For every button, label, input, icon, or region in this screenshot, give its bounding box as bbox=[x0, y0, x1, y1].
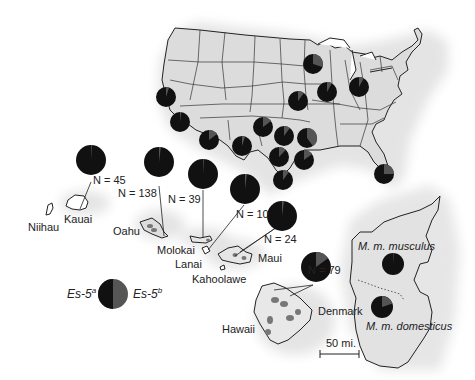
label-kauai: Kauai bbox=[64, 214, 92, 225]
pie-arkansas bbox=[297, 128, 317, 148]
pie-california-n bbox=[156, 87, 176, 107]
pie-oahu bbox=[144, 147, 174, 177]
label-n-lanai: N = 10 bbox=[236, 209, 269, 220]
legend-es5a: Es-5a bbox=[67, 287, 96, 300]
label-molokai: Molokai bbox=[157, 245, 195, 256]
pie-oklahoma bbox=[253, 117, 273, 137]
legend-es5b: Es-5b bbox=[133, 287, 162, 300]
pie-louisiana bbox=[294, 150, 314, 170]
pie-missouri bbox=[288, 91, 308, 111]
pie-new-mexico bbox=[232, 136, 252, 156]
label-n-hawaii: N = 79 bbox=[308, 265, 341, 276]
label-denmark: Denmark bbox=[318, 306, 363, 317]
pie-musculus bbox=[382, 253, 404, 275]
label-lanai: Lanai bbox=[175, 259, 202, 270]
pie-california-s bbox=[170, 112, 190, 132]
pie-ohio bbox=[349, 77, 369, 97]
pie-texas-c bbox=[269, 147, 289, 167]
island-niihau bbox=[46, 203, 53, 215]
label-n-molokai: N = 39 bbox=[168, 194, 201, 205]
pie-texas-n bbox=[274, 126, 294, 146]
scale-bar bbox=[320, 350, 359, 358]
pie-illinois bbox=[317, 82, 337, 102]
pie-domesticus bbox=[371, 296, 393, 318]
label-domesticus: M. m. domesticus bbox=[366, 321, 452, 332]
label-n-oahu: N = 138 bbox=[118, 188, 157, 199]
label-scale: 50 mi. bbox=[326, 338, 356, 349]
label-niihau: Niihau bbox=[28, 222, 59, 233]
pie-wisconsin bbox=[303, 54, 323, 74]
label-hawaii: Hawaii bbox=[222, 324, 255, 335]
label-n-kauai: N = 45 bbox=[93, 175, 126, 186]
label-musculus: M. m. musculus bbox=[358, 241, 435, 252]
label-kahoolawe: Kahoolawe bbox=[192, 274, 246, 285]
pie-maui bbox=[267, 201, 297, 231]
label-oahu: Oahu bbox=[113, 226, 140, 237]
pie-kauai bbox=[76, 145, 106, 175]
legend-pie bbox=[98, 279, 128, 309]
pie-molokai bbox=[188, 159, 218, 189]
pie-florida bbox=[374, 164, 394, 184]
pie-arizona bbox=[199, 130, 219, 150]
label-n-maui: N = 24 bbox=[264, 234, 297, 245]
pie-lanai bbox=[230, 174, 260, 204]
label-maui: Maui bbox=[258, 253, 282, 264]
pie-texas-s bbox=[273, 170, 293, 190]
